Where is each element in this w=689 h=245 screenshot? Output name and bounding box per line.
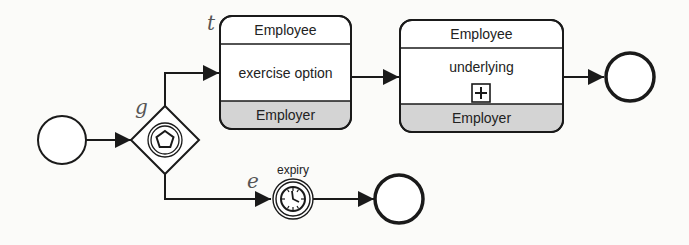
choreography-task-underlying[interactable]: Employee underlying Employer	[400, 20, 563, 132]
task-label: t	[207, 11, 216, 35]
gateway-label: g	[135, 95, 148, 119]
participant-bottom: Employer	[452, 110, 511, 126]
subprocess-plus-icon	[472, 84, 490, 102]
participant-top: Employee	[254, 22, 316, 38]
task-name: exercise option	[238, 65, 332, 81]
task-name: underlying	[449, 59, 514, 75]
participant-bottom: Employer	[256, 107, 315, 123]
bpmn-diagram: g Employee exercise option Employer t Em…	[0, 0, 689, 245]
timer-name: expiry	[277, 163, 309, 177]
timer-label: e	[247, 169, 259, 193]
timer-event[interactable]	[273, 179, 313, 219]
end-event[interactable]	[606, 53, 654, 101]
end-event-expiry[interactable]	[375, 175, 423, 223]
clock-icon	[281, 187, 305, 211]
start-event[interactable]	[38, 116, 86, 164]
choreography-task-exercise-option[interactable]: Employee exercise option Employer	[220, 16, 351, 129]
participant-top: Employee	[450, 26, 512, 42]
